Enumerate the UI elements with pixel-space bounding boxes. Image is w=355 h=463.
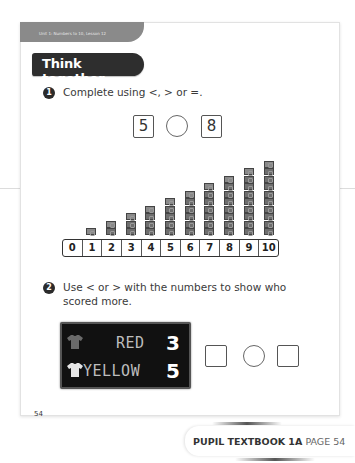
number-track-cell: 2 <box>102 240 122 256</box>
footer-shadow-line-top <box>212 422 282 425</box>
number-track-cell: 5 <box>161 240 181 256</box>
cube <box>126 213 136 220</box>
question-2-number-badge: 2 <box>43 282 55 294</box>
cube-tower <box>264 160 275 237</box>
q2-right-answer-box[interactable] <box>277 345 299 367</box>
cube-tower <box>106 220 117 237</box>
cube <box>126 221 136 228</box>
number-track-cell: 1 <box>83 240 103 256</box>
cube <box>224 206 234 213</box>
cube <box>244 206 254 213</box>
cube <box>244 176 254 183</box>
cube <box>244 221 254 228</box>
cube-towers <box>0 0 355 237</box>
number-track-cell: 9 <box>240 240 260 256</box>
cube <box>145 228 155 235</box>
cube <box>185 221 195 228</box>
number-track-cell: 7 <box>200 240 220 256</box>
cube <box>204 198 214 205</box>
q2-comparison-circle-input[interactable] <box>243 345 265 367</box>
cube <box>204 221 214 228</box>
cube <box>264 168 274 175</box>
cube <box>165 221 175 228</box>
question-2-prompt-line-1: Use < or > with the numbers to show who <box>63 280 286 294</box>
page-number: 54 <box>34 410 43 418</box>
cube-tower <box>204 183 215 238</box>
cube <box>244 213 254 220</box>
footer-shadow-line-bottom <box>235 458 315 461</box>
score-red: 3 <box>166 333 180 353</box>
cube-tower <box>185 190 196 237</box>
cube <box>224 191 234 198</box>
cube <box>244 198 254 205</box>
cube <box>204 206 214 213</box>
number-track-cell: 4 <box>142 240 162 256</box>
cube <box>264 176 274 183</box>
cube <box>165 206 175 213</box>
number-track-cell: 6 <box>181 240 201 256</box>
cube <box>224 221 234 228</box>
book-label: PUPIL TEXTBOOK 1A <box>193 436 302 447</box>
cube <box>204 213 214 220</box>
score-yellow: 5 <box>166 361 180 381</box>
cube-tower <box>86 228 97 238</box>
number-track-cell: 0 <box>63 240 83 256</box>
cube <box>145 221 155 228</box>
cube <box>204 183 214 190</box>
number-track-cell: 8 <box>220 240 240 256</box>
cube <box>224 176 234 183</box>
cube <box>224 228 234 235</box>
cube <box>264 183 274 190</box>
cube <box>185 228 195 235</box>
number-track-cell: 10 <box>259 240 278 256</box>
cube <box>106 228 116 235</box>
cube <box>264 161 274 168</box>
cube-tower <box>145 205 156 237</box>
cube <box>86 228 96 235</box>
scoreboard: RED 3 YELLOW 5 <box>60 322 191 389</box>
cube <box>224 198 234 205</box>
cube <box>224 213 234 220</box>
cube <box>224 183 234 190</box>
cube <box>145 206 155 213</box>
red-shirt-icon <box>67 334 83 350</box>
cube-tower <box>126 213 137 238</box>
question-2-prompt-line-2: scored more. <box>63 294 132 308</box>
number-track: 012345678910 <box>62 239 279 257</box>
cube <box>244 228 254 235</box>
cube <box>185 198 195 205</box>
cube <box>185 213 195 220</box>
cube <box>244 191 254 198</box>
cube <box>165 198 175 205</box>
cube <box>165 213 175 220</box>
cube <box>204 228 214 235</box>
cube <box>264 206 274 213</box>
cube <box>145 213 155 220</box>
team-name-red: RED <box>116 335 145 351</box>
cube <box>204 191 214 198</box>
cube <box>244 183 254 190</box>
cube <box>165 228 175 235</box>
cube <box>244 168 254 175</box>
cube <box>264 198 274 205</box>
cube <box>126 228 136 235</box>
q2-left-answer-box[interactable] <box>205 345 227 367</box>
page-label: PAGE 54 <box>305 436 345 447</box>
yellow-shirt-icon <box>67 362 83 378</box>
cube <box>185 191 195 198</box>
cube <box>185 206 195 213</box>
footer-label: PUPIL TEXTBOOK 1A PAGE 54 <box>193 436 345 447</box>
cube <box>264 228 274 235</box>
cube-tower <box>224 175 235 237</box>
cube <box>264 213 274 220</box>
cube-tower <box>244 168 255 238</box>
cube <box>264 191 274 198</box>
number-track-cell: 3 <box>122 240 142 256</box>
team-name-yellow: YELLOW <box>83 363 140 379</box>
cube <box>106 221 116 228</box>
cube <box>264 221 274 228</box>
cube-tower <box>165 198 176 238</box>
